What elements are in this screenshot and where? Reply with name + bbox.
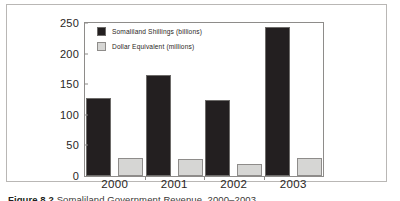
y-axis-labels: 050100150200250 <box>45 22 79 177</box>
y-axis-tick-label: 50 <box>45 139 79 151</box>
figure-page: 050100150200250 2000200120022003 Somalil… <box>0 0 400 201</box>
legend-item-series-1: Dollar Equivalent (millions) <box>97 41 247 52</box>
bar-2003-series-1 <box>297 158 322 176</box>
chart-legend: Somaliland Shillings (billions) Dollar E… <box>97 26 247 56</box>
y-axis-tick-label: 200 <box>45 48 79 60</box>
y-axis-tick-label: 150 <box>45 78 79 90</box>
bar-2002-series-0 <box>205 100 230 177</box>
x-axis-tick-mark <box>204 176 205 180</box>
legend-item-series-0: Somaliland Shillings (billions) <box>97 26 247 37</box>
y-axis-tick-mark <box>84 145 88 146</box>
bar-2000-series-0 <box>86 98 111 176</box>
legend-swatch-icon-series-1 <box>97 42 106 51</box>
bar-2000-series-1 <box>118 158 143 176</box>
x-axis-tick-mark <box>145 176 146 180</box>
legend-label-series-1: Dollar Equivalent (millions) <box>112 43 194 50</box>
figure-caption: Figure 8.2 Somaliland Government Revenue… <box>8 189 392 201</box>
bar-2002-series-1 <box>237 164 262 176</box>
figure-caption-number: Figure 8.2 <box>8 194 54 201</box>
figure-border: 050100150200250 2000200120022003 Somalil… <box>6 4 387 182</box>
bar-2003-series-0 <box>265 27 290 176</box>
y-axis-tick-mark <box>84 84 88 85</box>
bar-2001-series-1 <box>178 159 203 176</box>
y-axis-tick-label: 100 <box>45 109 79 121</box>
legend-label-series-0: Somaliland Shillings (billions) <box>112 28 202 35</box>
y-axis-tick-label: 0 <box>45 170 79 182</box>
y-axis-tick-mark <box>84 23 88 24</box>
legend-swatch-icon-series-0 <box>97 27 106 36</box>
y-axis-tick-label: 250 <box>45 17 79 29</box>
figure-caption-text: Somaliland Government Revenue, 2000–2003 <box>57 194 256 201</box>
y-axis-tick-mark <box>84 53 88 54</box>
bar-2001-series-0 <box>146 75 171 176</box>
x-axis-tick-mark <box>264 176 265 180</box>
y-axis-tick-mark <box>84 114 88 115</box>
